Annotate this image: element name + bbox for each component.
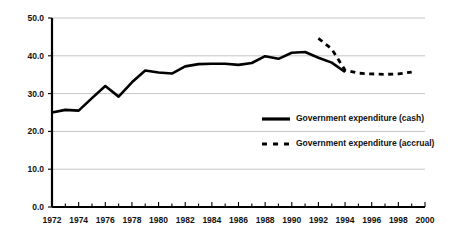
y-axis-tick-label: 50.0 [27, 13, 44, 23]
series-group [52, 38, 412, 112]
x-axis-tick-label: 1980 [149, 215, 168, 225]
x-axis-group [52, 202, 425, 207]
x-axis-tick-label: 1982 [176, 215, 195, 225]
x-axis-tick-label: 2000 [416, 215, 435, 225]
legend-label-accrual: Government expenditure (accrual) [296, 138, 435, 148]
x-axis-tick-label: 1992 [309, 215, 328, 225]
x-axis-tick-label: 1998 [389, 215, 408, 225]
x-axis-tick-label: 1994 [336, 215, 355, 225]
x-axis-tick-label: 1972 [43, 215, 62, 225]
legend-label-cash: Government expenditure (cash) [296, 113, 424, 123]
x-axis-tick-label: 1990 [282, 215, 301, 225]
y-axis-tick-label: 0.0 [32, 202, 44, 212]
legend-group: Government expenditure (cash)Government … [262, 113, 435, 148]
y-axis-tick-label: 30.0 [27, 89, 44, 99]
x-axis-tick-label: 1984 [202, 215, 221, 225]
y-axis-tick-label: 20.0 [27, 126, 44, 136]
x-tick-labels-group: 1972197419761978198019821984198619881990… [43, 215, 435, 225]
x-axis-tick-label: 1986 [229, 215, 248, 225]
chart-canvas: 0.010.020.030.040.050.0 1972197419761978… [0, 0, 460, 243]
x-axis-tick-label: 1974 [69, 215, 88, 225]
series-line-cash [52, 52, 345, 112]
x-axis-tick-label: 1976 [96, 215, 115, 225]
y-axis-tick-label: 10.0 [27, 164, 44, 174]
expenditure-line-chart: 0.010.020.030.040.050.0 1972197419761978… [0, 0, 460, 243]
series-line-accrual [318, 38, 411, 74]
x-axis-tick-label: 1996 [362, 215, 381, 225]
y-tick-labels-group: 0.010.020.030.040.050.0 [27, 13, 44, 212]
y-axis-tick-label: 40.0 [27, 51, 44, 61]
y-axis-group [48, 18, 52, 207]
x-axis-tick-label: 1988 [256, 215, 275, 225]
x-axis-tick-label: 1978 [122, 215, 141, 225]
